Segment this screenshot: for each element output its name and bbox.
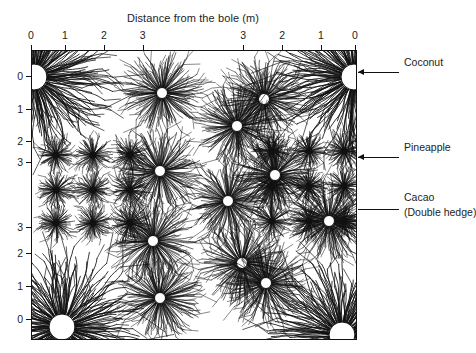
x-tick-label: 3 — [140, 30, 146, 41]
cacao-label: Cacao — [404, 191, 434, 204]
x-tick-label: 2 — [101, 30, 107, 41]
y-tick-label: 2 — [9, 248, 23, 259]
pineapple-label: Pineapple — [404, 141, 451, 154]
x-tick-label: 1 — [62, 30, 68, 41]
y-tick-label: 1 — [9, 281, 23, 292]
y-tick-label: 2 — [9, 135, 23, 146]
x-tick-label: 0 — [352, 30, 358, 41]
cacao-leader-line — [358, 209, 399, 210]
y-tick-label: 0 — [9, 71, 23, 82]
coconut-label: Coconut — [404, 56, 443, 69]
x-tick-label: 0 — [28, 30, 34, 41]
pineapple-leader-line — [358, 157, 399, 158]
x-tick-label: 1 — [318, 30, 324, 41]
coconut-leader-line — [358, 72, 399, 73]
y-tick-label: 3 — [9, 157, 23, 168]
x-axis-title: Distance from the bole (m) — [31, 12, 355, 24]
cacao-sublabel: (Double hedge) — [404, 206, 476, 219]
x-tick-label: 3 — [240, 30, 246, 41]
y-tick-label: 3 — [9, 222, 23, 233]
root-system-drawing — [32, 51, 356, 339]
pineapple-arrow-icon — [358, 154, 364, 160]
coconut-arrow-icon — [358, 69, 364, 75]
y-tick-label: 1 — [9, 104, 23, 115]
y-tick-label: 0 — [9, 314, 23, 325]
plot-area — [31, 50, 357, 340]
x-tick-label: 2 — [279, 30, 285, 41]
